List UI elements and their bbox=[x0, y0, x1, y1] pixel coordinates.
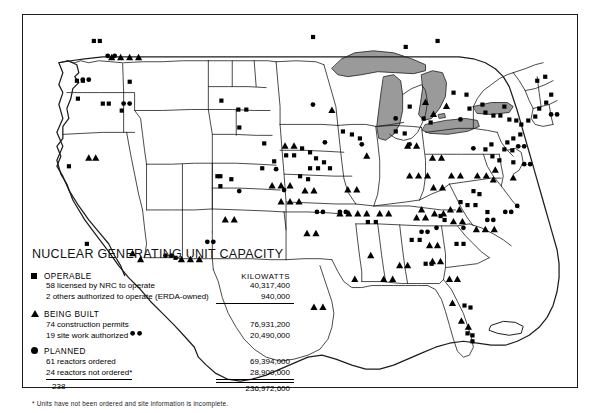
legend-group-operable: OPERABLE KILOWATTS 58 licensed by NRC to… bbox=[28, 272, 294, 304]
legend-total-row: 238 236,972,600 bbox=[28, 382, 294, 394]
filled-triangle-icon bbox=[31, 310, 44, 319]
legend-label-being-built: BEING BUILT bbox=[44, 310, 99, 319]
legend-head-planned: PLANNED bbox=[28, 347, 294, 356]
total-kilowatts: 236,972,600 bbox=[216, 382, 294, 394]
legend-row-desc: 74 construction permits bbox=[46, 320, 129, 331]
legend-row: 2 others authorized to operate (ERDA-own… bbox=[28, 292, 294, 305]
filled-circle-icon bbox=[31, 347, 44, 356]
legend-row: 74 construction permits 76,931,200 bbox=[28, 320, 294, 331]
legend-footnote: * Units have not been ordered and site i… bbox=[32, 400, 294, 407]
map-frame: NUCLEAR GENERATING UNIT CAPACITY OPERABL… bbox=[22, 14, 578, 388]
filled-square-icon bbox=[31, 272, 44, 281]
legend-row: 24 reactors not ordered* 28,900,000 bbox=[28, 368, 294, 381]
legend-row-value: 69,394,000 bbox=[216, 357, 294, 368]
legend-head-being-built: BEING BUILT bbox=[28, 310, 294, 319]
legend-row-desc: 2 others authorized to operate (ERDA-own… bbox=[46, 292, 209, 303]
puerto-rico-inset bbox=[489, 321, 523, 335]
legend-row-value: 40,317,400 bbox=[216, 281, 294, 292]
legend-row-desc: 19 site work authorized bbox=[46, 331, 128, 342]
legend-row-value: 28,900,000 bbox=[216, 368, 294, 381]
legend-row-desc: 61 reactors ordered bbox=[46, 357, 116, 368]
legend-label-operable: OPERABLE bbox=[44, 272, 92, 281]
legend-group-being-built: BEING BUILT 74 construction permits 76,9… bbox=[28, 310, 294, 341]
total-units: 238 bbox=[46, 382, 65, 394]
legend-row-value: 76,931,200 bbox=[216, 320, 294, 331]
legend-row: 58 licensed by NRC to operate 40,317,400 bbox=[28, 281, 294, 292]
legend-row: 61 reactors ordered 69,394,000 bbox=[28, 357, 294, 368]
legend-row-desc: 24 reactors not ordered* bbox=[46, 368, 132, 381]
kilowatts-header-text: KILOWATTS bbox=[216, 272, 294, 281]
legend-row-value: 20,490,000 bbox=[216, 331, 294, 342]
legend-label-planned: PLANNED bbox=[44, 347, 86, 356]
map-legend: NUCLEAR GENERATING UNIT CAPACITY OPERABL… bbox=[28, 247, 294, 407]
legend-row: 19 site work authorized 20,490,000 bbox=[28, 331, 294, 342]
screenshot-root: NUCLEAR GENERATING UNIT CAPACITY OPERABL… bbox=[0, 0, 596, 413]
legend-row-desc: 58 licensed by NRC to operate bbox=[46, 281, 155, 292]
great-lakes bbox=[332, 51, 513, 141]
legend-group-planned: PLANNED 61 reactors ordered 69,394,000 2… bbox=[28, 347, 294, 394]
legend-title: NUCLEAR GENERATING UNIT CAPACITY bbox=[32, 247, 294, 261]
legend-row-value: 940,000 bbox=[216, 292, 294, 305]
